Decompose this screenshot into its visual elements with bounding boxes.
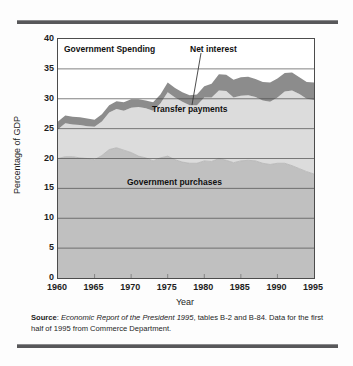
source-note: Source: Economic Report of the President… — [31, 312, 325, 334]
x-tick-1970: 1970 — [110, 282, 150, 292]
x-tick-1995: 1995 — [293, 282, 333, 292]
x-tick-1965: 1965 — [74, 282, 114, 292]
annotation-net-interest: Net interest — [190, 44, 237, 54]
source-publication: Economic Report of the President 1995 — [61, 313, 194, 322]
x-tick-1975: 1975 — [147, 282, 187, 292]
chart-inner-title: Government Spending — [64, 44, 155, 54]
x-axis-title: Year — [57, 297, 313, 307]
x-tick-1980: 1980 — [183, 282, 223, 292]
area-government-purchases — [58, 148, 314, 278]
plot-area — [57, 38, 315, 279]
x-tick-1960: 1960 — [37, 282, 77, 292]
stacked-area-chart — [58, 39, 314, 278]
x-tick-1985: 1985 — [220, 282, 260, 292]
annotation-transfer-payments: Transfer payments — [152, 104, 228, 114]
x-tick-1990: 1990 — [256, 282, 296, 292]
figure-container: Percentage of GDP 4035302520151050 19601… — [0, 0, 353, 366]
source-label: Source — [31, 313, 57, 322]
annotation-government-purchases: Government purchases — [127, 177, 222, 187]
